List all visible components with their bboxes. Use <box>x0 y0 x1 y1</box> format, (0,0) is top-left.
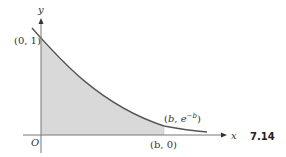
origin-label: O <box>31 137 39 148</box>
shaded-area <box>41 40 164 135</box>
figure-number: 7.14 <box>250 131 275 142</box>
x-axis-arrow-icon <box>221 133 227 138</box>
point-label-b-eb: (b, e−b) <box>164 112 201 124</box>
y-axis-arrow-icon <box>39 18 44 24</box>
y-axis-label: y <box>37 4 44 15</box>
exponential-area-diagram: y x O (0, 1) (b, e−b) (b, 0) 7.14 <box>0 0 286 157</box>
x-axis-label: x <box>231 130 237 141</box>
point-label-b-0: (b, 0) <box>150 139 177 150</box>
point-label-0-1: (0, 1) <box>14 35 41 46</box>
